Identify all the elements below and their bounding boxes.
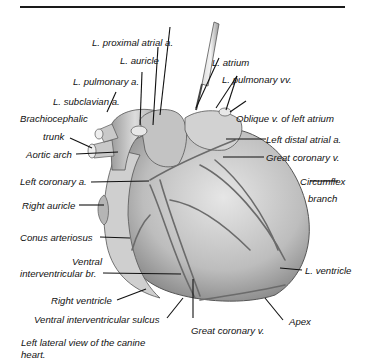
label-right-auricle: Right auricle bbox=[22, 200, 75, 211]
label-conus-arteriosus: Conus arteriosus bbox=[20, 232, 93, 243]
label-left-coronary-a: Left coronary a. bbox=[20, 176, 87, 187]
label-apex: Apex bbox=[289, 316, 311, 327]
label-brachiocephalic: Brachiocephalic bbox=[20, 113, 88, 124]
right-auricle-shape bbox=[98, 195, 109, 225]
label-l-subclavian-a: L. subclavian a. bbox=[53, 96, 120, 107]
label-l-auricle: L. auricle bbox=[120, 55, 159, 66]
label-great-coronary-v-top: Great coronary v. bbox=[266, 152, 339, 163]
label-aortic-arch: Aortic arch bbox=[26, 149, 72, 160]
label-great-coronary-v-bottom: Great coronary v. bbox=[191, 325, 264, 336]
label-ventral-iv-sulcus: Ventral interventricular sulcus bbox=[34, 314, 159, 325]
label-trunk: trunk bbox=[43, 131, 64, 142]
figure-caption: Left lateral view of the canine heart. bbox=[21, 337, 171, 360]
label-ventral: Ventral bbox=[72, 256, 102, 267]
label-l-proximal-atrial-a: L. proximal atrial a. bbox=[92, 37, 173, 48]
label-l-pulmonary-a: L. pulmonary a. bbox=[73, 76, 139, 87]
label-left-distal-atrial-a: Left distal atrial a. bbox=[266, 134, 341, 145]
label-oblique-v: Oblique v. of left atrium bbox=[236, 113, 334, 124]
label-circumflex: Circumflex bbox=[300, 176, 345, 187]
label-l-atrium: L. atrium bbox=[212, 57, 249, 68]
label-right-ventricle: Right ventricle bbox=[51, 295, 112, 306]
label-l-ventricle: L. ventricle bbox=[305, 265, 351, 276]
label-l-pulmonary-vv: L. pulmonary vv. bbox=[222, 74, 292, 85]
label-interventricular-br: interventricular br. bbox=[20, 268, 96, 279]
label-branch: branch bbox=[308, 193, 337, 204]
